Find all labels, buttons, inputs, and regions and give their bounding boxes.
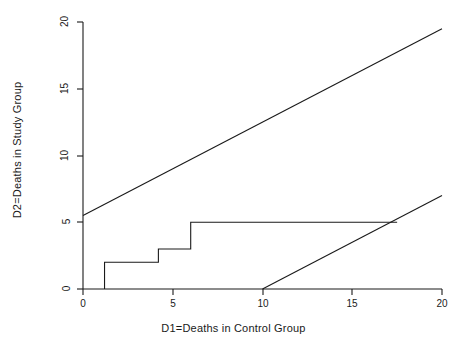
axis-lines	[83, 22, 442, 289]
x-tick-label-15: 15	[337, 298, 367, 309]
x-tick-label-0: 0	[68, 298, 98, 309]
upper-boundary-line	[83, 29, 442, 216]
y-tick-label-5: 5	[46, 216, 70, 227]
lower-boundary-line	[263, 196, 443, 289]
x-tick-label-20: 20	[427, 298, 457, 309]
y-tick-label-10: 10	[46, 150, 70, 161]
y-tick-marks	[77, 22, 83, 289]
x-tick-label-10: 10	[248, 298, 278, 309]
y-axis-title-wrapper: D2=Deaths in Study Group	[0, 0, 34, 300]
plot-area	[0, 0, 467, 347]
y-tick-label-15: 15	[46, 83, 70, 94]
y-tick-label-20: 20	[46, 16, 70, 27]
chart-figure: 0 5 10 15 20 0 5 10 15 20 D1=Deaths in C…	[0, 0, 467, 347]
step-function	[105, 222, 398, 289]
x-tick-marks	[83, 289, 442, 295]
x-tick-label-5: 5	[158, 298, 188, 309]
y-tick-label-0: 0	[46, 283, 70, 294]
y-axis-title: D2=Deaths in Study Group	[11, 82, 23, 219]
data-series-layer	[83, 29, 442, 289]
x-axis-title: D1=Deaths in Control Group	[0, 322, 467, 334]
